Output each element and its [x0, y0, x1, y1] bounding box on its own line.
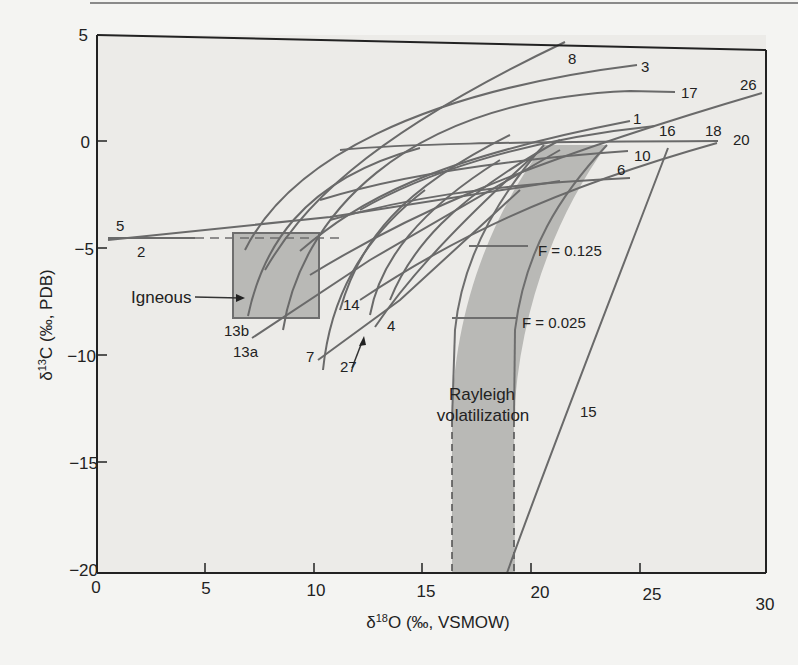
- rayleigh-label-1: Rayleigh: [449, 385, 515, 404]
- igneous-label: Igneous: [131, 288, 192, 307]
- ytick-neg15: −15: [69, 454, 98, 473]
- label-curve-7: 7: [306, 348, 314, 365]
- ytick-5: 5: [79, 26, 88, 45]
- ytick-neg5: −5: [75, 240, 94, 259]
- label-curve-1: 1: [633, 110, 641, 127]
- xtick-20: 20: [531, 583, 550, 602]
- label-curve-10: 10: [634, 147, 651, 164]
- label-curve-14: 14: [343, 296, 360, 313]
- ytick-neg10: −10: [67, 347, 96, 366]
- label-curve-16: 16: [659, 122, 676, 139]
- f-0125-label: F = 0.125: [538, 242, 602, 259]
- label-curve-6: 6: [617, 161, 625, 178]
- label-curve-4: 4: [387, 317, 395, 334]
- label-curve-27: 27: [340, 358, 357, 375]
- igneous-arrow: [195, 297, 240, 298]
- label-curve-26: 26: [740, 76, 757, 93]
- y-axis-title: δ13C (‰, PDB): [36, 269, 56, 380]
- xtick-15: 15: [417, 582, 436, 601]
- label-curve-3: 3: [641, 58, 649, 75]
- xtick-10: 10: [307, 581, 326, 600]
- x-axis-title: δ18O (‰, VSMOW): [366, 612, 510, 632]
- xtick-5: 5: [201, 579, 210, 598]
- label-curve-2: 2: [137, 243, 145, 260]
- label-curve-5: 5: [116, 217, 124, 234]
- label-curve-15: 15: [580, 403, 597, 420]
- rayleigh-label-2: volatilization: [437, 406, 530, 425]
- label-curve-17: 17: [681, 84, 698, 101]
- xtick-25: 25: [643, 585, 662, 604]
- label-curve-8: 8: [568, 50, 576, 67]
- label-curve-13a: 13a: [233, 343, 259, 360]
- label-curve-20: 20: [733, 131, 750, 148]
- ytick-0: 0: [81, 133, 90, 152]
- xtick-0: 0: [91, 578, 100, 597]
- chart: 5 0 −5 −10 −15 −20 0 5 10 15 20 25 30 δ1…: [0, 0, 798, 665]
- label-curve-18: 18: [705, 122, 722, 139]
- plot-area: [97, 35, 766, 573]
- xtick-30: 30: [756, 595, 775, 614]
- f-0025-label: F = 0.025: [522, 314, 586, 331]
- label-curve-13b: 13b: [224, 322, 249, 339]
